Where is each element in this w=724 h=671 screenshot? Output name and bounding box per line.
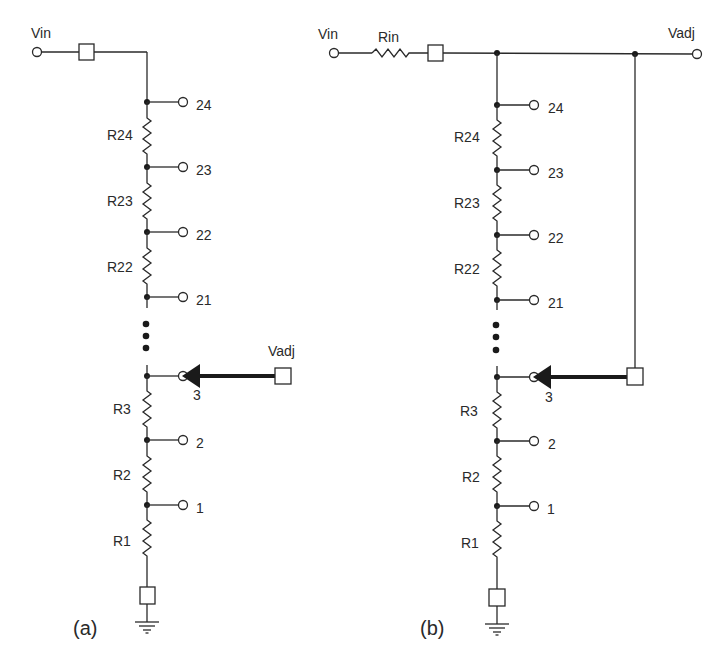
tap-23-terminal-icon [179, 163, 188, 172]
switch-box-icon [79, 44, 94, 60]
resistor-r3-icon [493, 377, 501, 441]
tap-21-label: 21 [548, 295, 564, 311]
resistor-rin-icon [372, 49, 428, 57]
tap-24-terminal-icon [179, 98, 188, 107]
panel-a: Vin 24 R24 23 R23 22 R22 [31, 25, 295, 639]
r1-label: R1 [461, 535, 479, 551]
tap-21-label: 21 [196, 292, 212, 308]
resistor-r23-icon [143, 167, 151, 232]
r2-label: R2 [113, 467, 131, 483]
tap-2-terminal-icon [530, 437, 539, 446]
tap-3-label: 3 [193, 387, 201, 403]
tap-24-label: 24 [196, 97, 212, 113]
r24-label: R24 [454, 129, 480, 145]
resistor-r1-icon [493, 506, 501, 589]
r3-label: R3 [460, 403, 478, 419]
vin-terminal-icon [33, 48, 42, 57]
tap-2-label: 2 [548, 436, 556, 452]
panel-b-caption: (b) [420, 617, 444, 639]
tap-23-terminal-icon [530, 166, 539, 175]
r23-label: R23 [454, 195, 480, 211]
tap-3-terminal-icon [530, 373, 539, 382]
resistor-r24-icon [493, 105, 501, 170]
vadj-box-icon [275, 368, 291, 384]
tap-22-terminal-icon [179, 228, 188, 237]
tap-1-terminal-icon [530, 502, 539, 511]
tap-23-label: 23 [548, 165, 564, 181]
resistor-r22-icon [493, 235, 501, 300]
r2-label: R2 [462, 469, 480, 485]
resistor-r3-icon [143, 376, 151, 440]
ground-icon [485, 624, 509, 635]
r24-label: R24 [107, 127, 133, 143]
vin-terminal-icon [330, 49, 339, 58]
r22-label: R22 [107, 259, 133, 275]
r3-label: R3 [113, 401, 131, 417]
tap-21-terminal-icon [179, 293, 188, 302]
vin-label: Vin [31, 25, 51, 41]
tap-22-label: 22 [548, 230, 564, 246]
resistor-r2-icon [143, 440, 151, 505]
vadj-label: Vadj [668, 25, 695, 41]
ground-switch-box-icon [489, 589, 505, 606]
tap-24-terminal-icon [530, 101, 539, 110]
tap-2-label: 2 [196, 435, 204, 451]
ground-switch-box-icon [140, 587, 155, 604]
tap-21-terminal-icon [530, 296, 539, 305]
tap-1-label: 1 [196, 500, 204, 516]
tap-22-label: 22 [196, 227, 212, 243]
resistor-r22-icon [143, 232, 151, 297]
vadj-label: Vadj [268, 343, 295, 359]
tap-22-terminal-icon [530, 231, 539, 240]
resistor-r24-icon [143, 102, 151, 167]
tap-1-terminal-icon [179, 501, 188, 510]
panel-b: Vin Rin Vadj 24 R24 23 R23 [318, 25, 702, 639]
resistor-r1-icon [143, 505, 151, 587]
resistor-r2-icon [493, 441, 501, 506]
tap-3-label: 3 [545, 389, 553, 405]
resistor-r23-icon [493, 170, 501, 235]
ellipsis-icon [143, 321, 150, 352]
vin-label: Vin [318, 26, 338, 42]
panel-a-caption: (a) [73, 617, 97, 639]
tap-23-label: 23 [196, 162, 212, 178]
r1-label: R1 [113, 533, 131, 549]
r22-label: R22 [454, 261, 480, 277]
circuit-diagram: Vin 24 R24 23 R23 22 R22 [0, 0, 724, 671]
vadj-box-icon [627, 368, 643, 385]
tap-3-terminal-icon [179, 372, 188, 381]
tap-2-terminal-icon [179, 436, 188, 445]
r23-label: R23 [107, 193, 133, 209]
rin-label: Rin [378, 29, 399, 45]
ellipsis-icon [493, 322, 500, 354]
ground-icon [135, 622, 159, 633]
vadj-terminal-icon [693, 50, 702, 59]
switch-box-icon [428, 45, 443, 61]
tap-1-label: 1 [547, 501, 555, 517]
tap-24-label: 24 [548, 100, 564, 116]
